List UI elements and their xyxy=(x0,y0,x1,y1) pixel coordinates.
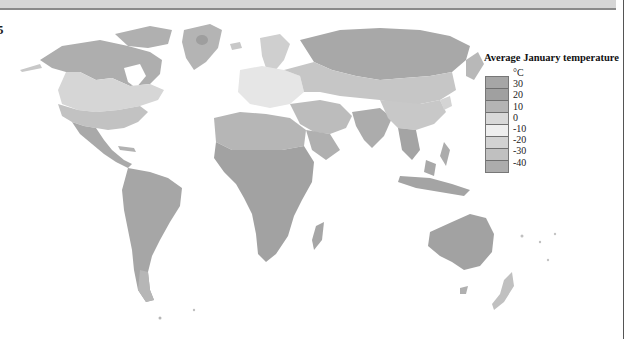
legend-label: -30 xyxy=(513,145,526,156)
new-zealand xyxy=(492,272,514,310)
india xyxy=(352,108,392,148)
legend-label: -20 xyxy=(513,134,526,145)
legend-swatch-minus10 xyxy=(486,137,508,149)
legend-swatch-top xyxy=(486,77,508,89)
legend-swatch-10 xyxy=(486,113,508,125)
south-america xyxy=(122,168,182,302)
madagascar xyxy=(312,222,324,250)
legend-unit: °C xyxy=(513,67,526,78)
legend-swatch-minus20 xyxy=(486,149,508,161)
legend-label: -40 xyxy=(513,157,526,168)
east-asia xyxy=(380,100,446,130)
legend-label: 30 xyxy=(513,78,526,89)
legend-label: 10 xyxy=(513,101,526,112)
legend-label: 0 xyxy=(513,112,526,123)
greenland xyxy=(182,24,222,70)
legend-label: -10 xyxy=(513,123,526,134)
africa xyxy=(214,142,314,262)
indonesia xyxy=(398,176,470,196)
legend-swatch-30 xyxy=(486,89,508,101)
legend-labels: °C 30 20 10 0 -10 -20 -30 -40 xyxy=(513,67,526,168)
australia xyxy=(428,214,494,270)
legend-swatch-0 xyxy=(486,125,508,137)
scandinavia xyxy=(260,34,290,72)
southeast-asia xyxy=(398,128,420,160)
north-africa xyxy=(214,112,306,150)
legend-title: Average January temperature xyxy=(484,52,634,63)
legend-label: 20 xyxy=(513,89,526,100)
tasmania xyxy=(460,286,468,294)
temperature-legend: Average January temperature °C 30 20 10 … xyxy=(484,52,634,177)
top-header-band xyxy=(0,0,616,10)
legend-swatches xyxy=(485,76,509,173)
legend-swatch-20 xyxy=(486,101,508,113)
legend-swatch-minus30 xyxy=(486,161,508,172)
